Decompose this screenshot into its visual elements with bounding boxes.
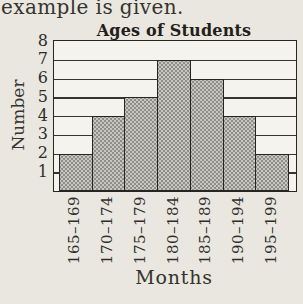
x-tick-label-175–179: 175–179 xyxy=(131,196,149,264)
bar-185–189 xyxy=(190,79,224,192)
x-tick-label-185–189: 185–189 xyxy=(196,196,214,264)
y-tick-label-1: 1 xyxy=(0,162,48,181)
chart-title: Ages of Students xyxy=(53,21,295,40)
plot-area xyxy=(53,40,297,192)
bar-165–169 xyxy=(59,154,93,192)
bar-175–179 xyxy=(124,97,158,191)
body-text-fragment: example is given. xyxy=(1,0,184,19)
y-tick-label-3: 3 xyxy=(0,124,48,143)
y-tick-label-8: 8 xyxy=(0,31,48,50)
y-tick-label-4: 4 xyxy=(0,106,48,125)
bar-170–174 xyxy=(92,116,126,191)
x-tick-label-165–169: 165–169 xyxy=(65,196,83,264)
x-axis-label: Months xyxy=(53,266,295,288)
x-tick-label-195–199: 195–199 xyxy=(262,196,280,264)
bar-195–199 xyxy=(255,154,289,192)
y-tick-label-2: 2 xyxy=(0,143,48,162)
x-tick-label-170–174: 170–174 xyxy=(98,196,116,264)
y-tick-label-7: 7 xyxy=(0,49,48,68)
bar-180–184 xyxy=(157,60,191,191)
x-tick-label-180–184: 180–184 xyxy=(164,196,182,264)
bar-190–194 xyxy=(223,116,257,191)
scanned-page: example is given. Ages of Students Numbe… xyxy=(0,0,303,304)
x-tick-label-190–194: 190–194 xyxy=(229,196,247,264)
y-tick-label-5: 5 xyxy=(0,87,48,106)
y-tick-label-6: 6 xyxy=(0,68,48,87)
plot-inner xyxy=(54,41,296,191)
